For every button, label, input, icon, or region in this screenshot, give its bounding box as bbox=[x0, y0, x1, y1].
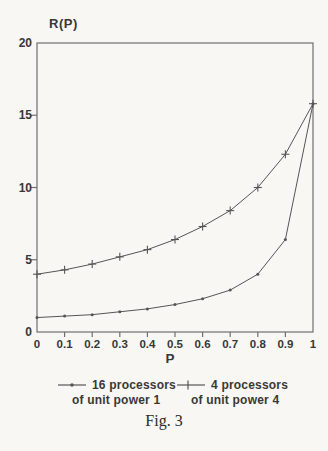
dot-marker bbox=[146, 307, 149, 310]
x-tick-label: 1 bbox=[310, 338, 317, 350]
dot-marker bbox=[63, 315, 66, 318]
legend-item-16-processors: 16 processors of unit power 1 bbox=[57, 378, 176, 407]
x-tick-label: 0.6 bbox=[195, 338, 211, 350]
legend-item-4-processors: 4 processors of unit power 4 bbox=[176, 378, 288, 407]
dot-marker bbox=[174, 303, 177, 306]
legend-label: 4 processors bbox=[211, 378, 288, 392]
x-tick-label: 0.3 bbox=[112, 338, 128, 350]
legend-label: 16 processors bbox=[92, 378, 176, 392]
dot-marker bbox=[36, 316, 39, 319]
legend-label-line2: of unit power 4 bbox=[191, 393, 288, 407]
dot-marker bbox=[118, 310, 121, 313]
x-tick-label: 0 bbox=[34, 338, 40, 350]
dot-marker-icon bbox=[57, 380, 87, 390]
series-line bbox=[37, 104, 313, 318]
y-tick-label: 5 bbox=[25, 253, 32, 267]
x-tick-label: 0.4 bbox=[139, 338, 156, 350]
figure-caption: Fig. 3 bbox=[0, 412, 328, 430]
dot-marker bbox=[201, 297, 204, 300]
x-tick-label: 0.2 bbox=[84, 338, 100, 350]
y-tick-label: 15 bbox=[19, 108, 33, 122]
y-tick-label: 10 bbox=[19, 181, 33, 195]
x-tick-label: 0.8 bbox=[250, 338, 267, 350]
dot-marker bbox=[256, 273, 259, 276]
x-axis-title: P bbox=[160, 351, 180, 366]
y-tick-label: 0 bbox=[25, 325, 32, 339]
y-tick-label: 20 bbox=[19, 36, 33, 50]
dot-marker bbox=[284, 238, 287, 241]
plus-marker-icon bbox=[176, 380, 206, 390]
dot-marker bbox=[91, 313, 94, 316]
series-line bbox=[37, 104, 313, 275]
legend: 16 processors of unit power 1 4 processo… bbox=[0, 378, 328, 412]
dot-marker bbox=[229, 289, 232, 292]
plot-frame bbox=[37, 43, 313, 332]
figure-page: R(P) 0510152000.10.20.30.40.50.60.70.80.… bbox=[0, 0, 328, 451]
x-tick-label: 0.9 bbox=[277, 338, 293, 350]
x-tick-label: 0.1 bbox=[57, 338, 74, 350]
x-tick-label: 0.5 bbox=[167, 338, 184, 350]
x-tick-label: 0.7 bbox=[222, 338, 238, 350]
legend-label-line2: of unit power 1 bbox=[72, 393, 176, 407]
